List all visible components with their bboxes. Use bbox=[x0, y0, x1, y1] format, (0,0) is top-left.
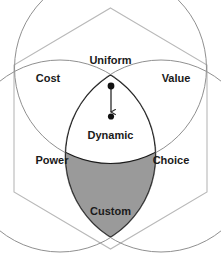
label-value: Value bbox=[162, 72, 191, 84]
label-choice: Choice bbox=[153, 154, 190, 166]
label-power: Power bbox=[35, 154, 69, 166]
venn-diagram-container: Uniform Cost Value Dynamic Power Choice … bbox=[0, 0, 221, 258]
label-dynamic: Dynamic bbox=[88, 129, 134, 141]
uniform-point-marker bbox=[108, 83, 115, 90]
venn-diagram-svg: Uniform Cost Value Dynamic Power Choice … bbox=[0, 0, 221, 258]
label-custom: Custom bbox=[90, 205, 131, 217]
dynamic-point-marker bbox=[108, 113, 114, 119]
label-uniform: Uniform bbox=[89, 54, 131, 66]
label-cost: Cost bbox=[36, 72, 61, 84]
